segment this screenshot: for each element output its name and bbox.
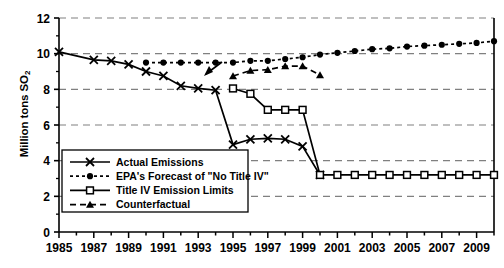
data-point — [386, 172, 393, 179]
data-point — [369, 46, 375, 52]
data-point — [404, 172, 411, 179]
x-tick-label-2007: 2007 — [428, 241, 455, 255]
legend-label: EPA's Forecast of "No Title IV" — [116, 170, 269, 182]
data-point — [230, 85, 237, 92]
legend-label: Actual Emissions — [116, 156, 204, 168]
series-line — [233, 66, 320, 76]
x-ticks-group: 1985198719891991199319951997199920012003… — [46, 232, 494, 255]
y-tick-label-2: 2 — [43, 190, 50, 204]
counterfactual-arrow-head — [204, 66, 213, 76]
data-point — [230, 59, 236, 65]
x-tick-label-2009: 2009 — [463, 241, 490, 255]
x-tick-label-1991: 1991 — [150, 241, 177, 255]
y-tick-label-6: 6 — [43, 119, 50, 133]
data-point — [317, 51, 323, 57]
series-line — [233, 88, 494, 174]
x-tick-label-1999: 1999 — [289, 241, 316, 255]
chart-plot: 024681012 198519871989199119931995199719… — [0, 0, 504, 268]
data-point — [247, 58, 253, 64]
legend-label: Counterfactual — [116, 198, 190, 210]
data-point — [438, 172, 445, 179]
data-point — [352, 48, 358, 54]
data-point — [264, 106, 271, 113]
y-ticks-group: 024681012 — [37, 12, 59, 240]
data-point — [334, 172, 341, 179]
chart-container: Million tons SO2 024681012 1985198719891… — [0, 0, 504, 268]
data-point — [456, 41, 462, 47]
data-point — [247, 90, 254, 97]
data-point — [300, 54, 306, 60]
data-point — [456, 172, 463, 179]
x-tick-label-2005: 2005 — [394, 241, 421, 255]
x-tick-label-2001: 2001 — [324, 241, 351, 255]
y-tick-label-10: 10 — [37, 47, 51, 61]
legend-label: Title IV Emission Limits — [116, 184, 234, 196]
data-point — [421, 43, 427, 49]
data-point — [281, 62, 289, 69]
series-title-iv-emission-limits — [230, 85, 498, 178]
data-point — [351, 172, 358, 179]
data-point — [491, 172, 498, 179]
data-point — [491, 38, 497, 44]
x-tick-label-1993: 1993 — [185, 241, 212, 255]
x-tick-label-1989: 1989 — [115, 241, 142, 255]
x-tick-label-2003: 2003 — [359, 241, 386, 255]
data-point — [265, 58, 271, 64]
data-point — [421, 172, 428, 179]
data-point — [439, 42, 445, 48]
data-point — [299, 106, 306, 113]
y-tick-label-12: 12 — [37, 12, 51, 26]
data-point — [282, 106, 289, 113]
data-point — [334, 50, 340, 56]
data-point — [160, 59, 166, 65]
data-point — [387, 45, 393, 51]
data-point — [473, 172, 480, 179]
x-tick-label-1987: 1987 — [80, 241, 107, 255]
y-tick-label-4: 4 — [43, 154, 50, 168]
data-point — [317, 172, 324, 179]
chart-legend: Actual EmissionsEPA's Forecast of "No Ti… — [62, 150, 269, 212]
data-point — [178, 59, 184, 65]
y-tick-label-0: 0 — [43, 226, 50, 240]
data-point — [195, 59, 201, 65]
data-point — [369, 172, 376, 179]
data-point — [143, 59, 149, 65]
data-point — [474, 40, 480, 46]
x-tick-label-1985: 1985 — [46, 241, 73, 255]
x-tick-label-1995: 1995 — [220, 241, 247, 255]
y-tick-label-8: 8 — [43, 83, 50, 97]
series-counterfactual — [229, 62, 324, 79]
data-point — [404, 43, 410, 49]
legend-marker-square-icon — [87, 187, 94, 194]
series-epa-s-forecast-of-no-title-iv — [143, 38, 497, 66]
data-point — [282, 56, 288, 62]
legend-marker-circle-icon — [87, 173, 93, 179]
data-point — [316, 71, 324, 78]
data-point — [299, 62, 307, 69]
x-tick-label-1997: 1997 — [254, 241, 281, 255]
